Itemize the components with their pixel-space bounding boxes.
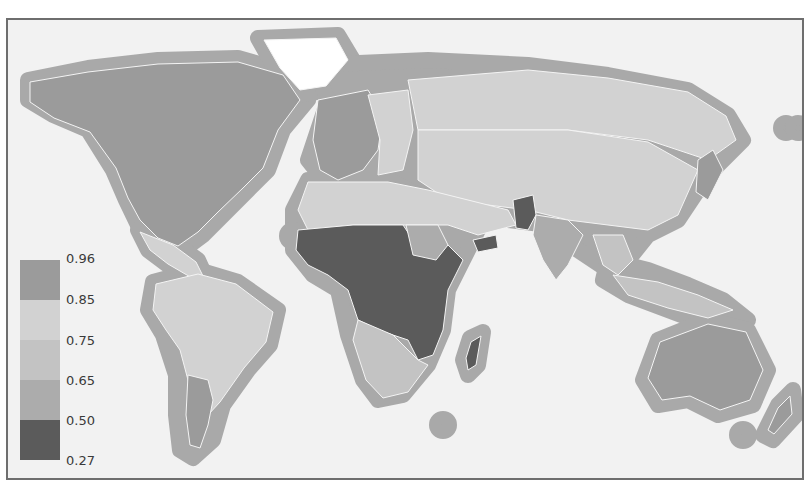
legend-swatch-0 (20, 260, 60, 300)
legend-swatch-1 (20, 300, 60, 340)
legend-swatch-4 (20, 420, 60, 460)
legend-swatch-2 (20, 340, 60, 380)
world-map[interactable] (8, 20, 802, 478)
legend-label-2: 0.75 (66, 334, 95, 348)
legend-swatch-3 (20, 380, 60, 420)
legend-label-0: 0.96 (66, 252, 95, 266)
legend-label-5: 0.27 (66, 454, 95, 468)
region-north-america[interactable] (30, 62, 300, 246)
legend-label-4: 0.50 (66, 414, 95, 428)
legend: 0.96 0.85 0.75 0.65 0.50 0.27 (20, 252, 110, 474)
legend-label-1: 0.85 (66, 293, 95, 307)
legend-label-3: 0.65 (66, 374, 95, 388)
map-frame: 0.96 0.85 0.75 0.65 0.50 0.27 (6, 18, 804, 480)
